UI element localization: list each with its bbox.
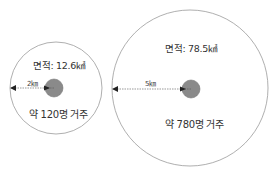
large-radius-label: 5㎞	[145, 78, 156, 88]
circles-diagram	[0, 0, 278, 177]
small-population-label: 약 120명 거주	[29, 106, 88, 121]
small-radius-label: 2㎞	[27, 78, 38, 88]
large-population-label: 약 780명 거주	[165, 116, 224, 131]
large-area-label: 면적: 78.5㎢	[165, 41, 218, 55]
small-area-label: 면적: 12.6㎢	[33, 58, 86, 72]
